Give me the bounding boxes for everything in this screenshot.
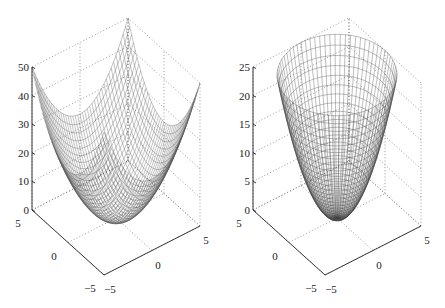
x-axis	[325, 226, 421, 275]
left-surface-plot: 01020304050−505−505	[15, 18, 209, 295]
y-tick-label: 5	[236, 217, 242, 229]
y-tick-label: −5	[84, 282, 96, 294]
z-tick-label: 10	[239, 147, 251, 159]
y-axis	[253, 210, 325, 275]
z-tick-label: 30	[18, 118, 30, 130]
surface-mesh	[277, 34, 397, 221]
tick-labels: 0510152025−505−505	[236, 61, 430, 295]
y-tick-label: 5	[15, 217, 21, 229]
z-tick-label: 15	[239, 118, 251, 130]
x-axis	[104, 226, 200, 275]
x-tick-label: 0	[376, 259, 382, 271]
z-tick-label: 0	[245, 204, 251, 216]
x-tick-label: 0	[155, 259, 161, 271]
z-tick-label: 20	[18, 147, 30, 159]
y-tick-label: 0	[51, 250, 57, 262]
surface-mesh	[32, 18, 200, 224]
y-axis	[32, 210, 104, 275]
y-tick-label: 0	[272, 250, 278, 262]
figure: 01020304050−505−505 0510152025−505−505	[0, 0, 445, 308]
z-tick-label: 20	[239, 90, 251, 102]
z-tick-label: 10	[18, 175, 30, 187]
z-tick-label: 40	[18, 90, 30, 102]
z-tick-label: 5	[245, 175, 251, 187]
x-tick-label: −5	[325, 283, 337, 295]
right-surface-plot: 0510152025−505−505	[236, 18, 430, 295]
z-tick-label: 0	[24, 204, 30, 216]
x-tick-label: 5	[424, 234, 430, 246]
x-tick-label: −5	[104, 283, 116, 295]
mesh-lines	[277, 34, 397, 221]
z-tick-label: 25	[239, 61, 251, 73]
mesh-lines	[32, 18, 200, 224]
y-tick-label: −5	[305, 282, 317, 294]
gridlines	[253, 18, 421, 275]
z-tick-label: 50	[18, 61, 30, 73]
x-tick-label: 5	[203, 234, 209, 246]
